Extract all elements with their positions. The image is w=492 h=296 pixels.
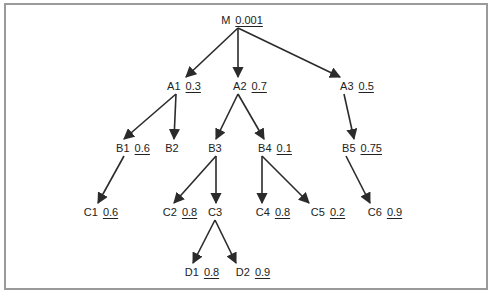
edge-a2-b4 [238, 94, 264, 139]
node-m: M0.001 [221, 14, 263, 26]
node-c1: C10.6 [84, 206, 118, 218]
node-label: B3 [208, 142, 221, 154]
node-label: A1 [167, 80, 180, 92]
node-d1: D10.8 [185, 266, 219, 278]
edge-a2-b3 [216, 94, 238, 139]
node-label: C6 [368, 206, 382, 218]
node-label: A3 [340, 80, 353, 92]
node-label: C4 [256, 206, 270, 218]
edge-b3-c2 [174, 156, 216, 203]
node-b5: B50.75 [342, 142, 382, 154]
node-label: C2 [163, 206, 177, 218]
node-a1: A10.3 [167, 80, 201, 92]
node-d2: D20.9 [236, 266, 270, 278]
edge-c3-d2 [215, 220, 236, 263]
edge-c3-d1 [193, 220, 215, 263]
node-label: B5 [342, 142, 355, 154]
node-value: 0.1 [277, 142, 292, 154]
node-label: B1 [116, 142, 129, 154]
node-label: A2 [233, 80, 246, 92]
node-label: C5 [311, 206, 325, 218]
node-value: 0.6 [135, 142, 150, 154]
node-a2: A20.7 [233, 80, 267, 92]
node-value: 0.7 [252, 80, 267, 92]
node-c5: C50.2 [311, 206, 345, 218]
node-label: B2 [165, 142, 178, 154]
node-b4: B40.1 [258, 142, 292, 154]
edge-b4-c5 [262, 156, 309, 203]
edge-m-a1 [186, 28, 238, 77]
node-c3: C3 [208, 206, 222, 218]
node-label: C1 [84, 206, 98, 218]
node-value: 0.2 [330, 206, 345, 218]
node-label: C3 [208, 206, 222, 218]
edge-b5-c6 [346, 156, 370, 203]
node-c4: C40.8 [256, 206, 290, 218]
node-c2: C20.8 [163, 206, 197, 218]
node-value: 0.5 [359, 80, 374, 92]
node-value: 0.9 [387, 206, 402, 218]
tree-edges [0, 0, 492, 296]
node-value: 0.75 [361, 142, 382, 154]
edge-a1-b1 [124, 94, 176, 139]
node-value: 0.8 [204, 266, 219, 278]
node-label: D1 [185, 266, 199, 278]
node-b2: B2 [165, 142, 178, 154]
node-value: 0.3 [186, 80, 201, 92]
node-a3: A30.5 [340, 80, 374, 92]
edge-m-a3 [238, 28, 340, 77]
edge-a3-b5 [344, 94, 354, 139]
node-b3: B3 [208, 142, 221, 154]
node-label: B4 [258, 142, 271, 154]
node-value: 0.6 [103, 206, 118, 218]
node-value: 0.9 [255, 266, 270, 278]
node-label: D2 [236, 266, 250, 278]
node-value: 0.8 [275, 206, 290, 218]
node-label: M [221, 14, 230, 26]
node-value: 0.8 [182, 206, 197, 218]
node-b1: B10.6 [116, 142, 150, 154]
node-value: 0.001 [235, 14, 263, 26]
edge-a1-b2 [174, 94, 176, 139]
edge-b1-c1 [98, 156, 124, 203]
node-c6: C60.9 [368, 206, 402, 218]
